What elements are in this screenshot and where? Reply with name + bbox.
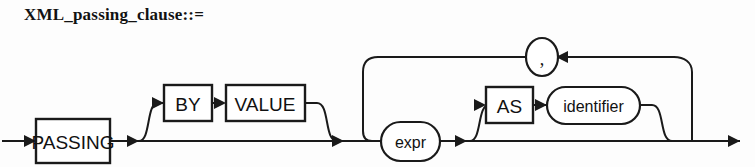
syntax-diagram-page: XML_passing_clause::=: [0, 0, 755, 167]
value-entry-arrow-icon: [214, 97, 226, 109]
passing-exit-arrow-icon: [127, 135, 139, 147]
track-branch-up-to-by: [139, 103, 163, 141]
expr-exit-arrow-icon: [455, 135, 467, 147]
node-identifier[interactable]: identifier: [547, 87, 640, 124]
exit-arrow-icon: [728, 135, 740, 147]
node-value[interactable]: VALUE: [226, 85, 305, 121]
node-as[interactable]: AS: [486, 87, 533, 123]
node-by[interactable]: BY: [164, 85, 212, 121]
node-expr[interactable]: expr: [381, 122, 440, 161]
value-label: VALUE: [235, 94, 296, 115]
expr-label: expr: [395, 134, 427, 151]
railroad-diagram: PASSING BY VALUE expr AS identifier: [0, 0, 755, 167]
node-comma[interactable]: ,: [526, 38, 558, 76]
by-entry-arrow-icon: [152, 97, 164, 109]
node-passing[interactable]: PASSING: [31, 119, 114, 163]
comma-label: ,: [540, 49, 545, 69]
track-identifier-rejoin-main: [640, 105, 672, 141]
as-label: AS: [497, 96, 522, 117]
identifier-entry-arrow-icon: [535, 99, 547, 111]
passing-label: PASSING: [31, 132, 114, 153]
by-label: BY: [175, 94, 201, 115]
identifier-label: identifier: [563, 98, 624, 115]
